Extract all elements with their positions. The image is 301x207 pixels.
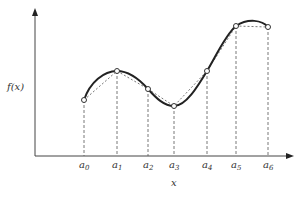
y-axis-label: f(x) [6,81,24,92]
drop-lines [84,26,268,156]
svg-text:a6: a6 [263,159,274,172]
linear-approximation [84,26,268,106]
svg-text:a2: a2 [143,159,154,172]
svg-text:a3: a3 [169,159,180,172]
tick-labels: a0 a1 a2 a3 a4 a5 a6 [79,159,274,172]
svg-text:a0: a0 [79,159,90,172]
svg-text:a5: a5 [231,159,242,172]
function-approximation-diagram: f(x) x a0 a1 a2 a3 a4 a5 a6 [0,0,301,207]
function-curve [84,21,268,106]
svg-text:a4: a4 [202,159,212,172]
x-axis-label: x [171,177,177,188]
sample-points [82,24,271,109]
svg-text:a1: a1 [112,159,122,172]
